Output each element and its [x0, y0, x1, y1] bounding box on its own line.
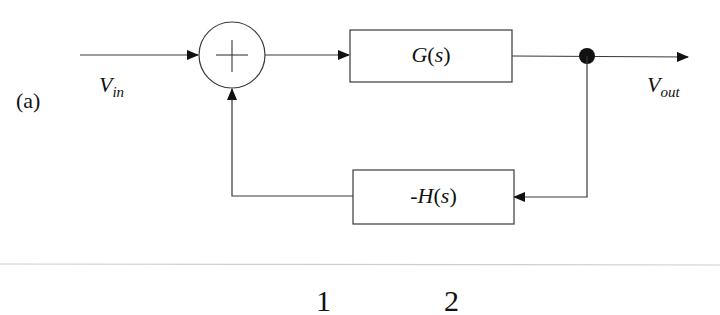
summing-junction: [199, 22, 265, 88]
figure-tag: (a): [16, 88, 40, 114]
forward-block-text: G(s): [411, 42, 450, 67]
output-signal-sub: out: [660, 84, 679, 100]
feedback-block-text: -H(s): [410, 183, 456, 208]
output-signal-label: Vout: [647, 72, 680, 98]
input-signal-sub: in: [112, 84, 124, 100]
forward-block-label: G(s): [350, 42, 512, 68]
feedback-down-line: [514, 56, 587, 197]
output-signal-main: V: [647, 72, 660, 97]
feedback-return-line: [232, 89, 353, 196]
input-signal-label: Vin: [99, 72, 124, 98]
feedback-block-label: -H(s): [353, 183, 514, 209]
separator-line: [0, 264, 720, 265]
input-signal-main: V: [99, 72, 112, 97]
forward-output-line: [512, 56, 688, 57]
partial-text-1: 1: [316, 284, 331, 315]
partial-text-2: 2: [444, 284, 459, 315]
